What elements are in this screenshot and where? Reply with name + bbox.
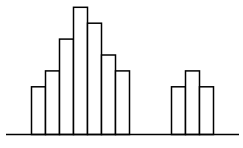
histogram-chart	[0, 0, 243, 148]
histogram-bar	[186, 71, 200, 135]
histogram-bar	[88, 23, 102, 134]
histogram-bar	[102, 55, 116, 135]
histogram-bars	[32, 7, 214, 134]
histogram-bar	[172, 87, 186, 135]
histogram-bar	[74, 7, 88, 134]
histogram-bar	[60, 39, 74, 134]
histogram-bar	[116, 71, 130, 135]
histogram-bar	[200, 87, 214, 135]
histogram-bar	[32, 87, 46, 135]
histogram-bar	[46, 71, 60, 135]
